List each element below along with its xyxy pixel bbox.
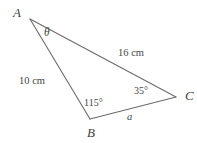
vertex-label-c: C (185, 89, 194, 102)
side-bc-line (90, 97, 176, 119)
side-ab-line (30, 19, 90, 119)
side-label-ab: 10 cm (19, 76, 45, 87)
side-ac-line (30, 19, 176, 97)
triangle-figure (0, 0, 197, 143)
side-label-ac: 16 cm (118, 48, 144, 59)
angle-label-theta: θ (44, 27, 50, 39)
vertex-label-b: B (87, 126, 95, 139)
angle-label-c: 35° (134, 86, 148, 96)
angle-label-b: 115° (84, 98, 103, 108)
side-label-bc: a (127, 112, 132, 123)
vertex-label-a: A (13, 6, 21, 19)
